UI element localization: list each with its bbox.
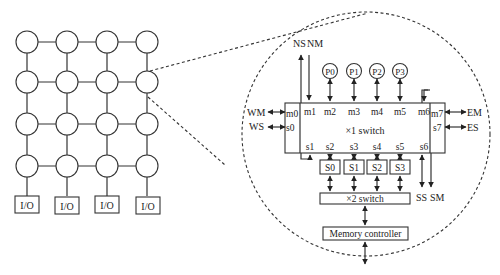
mesh-node bbox=[136, 31, 158, 53]
port-m5: m5 bbox=[394, 107, 406, 117]
port-s7: s7 bbox=[433, 123, 442, 133]
io-label: I/O bbox=[60, 201, 73, 212]
processor-label: P3 bbox=[395, 67, 405, 77]
port-s0: s0 bbox=[286, 123, 295, 133]
mesh-node bbox=[56, 113, 78, 135]
mesh-node bbox=[56, 31, 78, 53]
ws-label: WS bbox=[249, 121, 264, 132]
em-label: EM bbox=[467, 107, 482, 118]
slave-links-bottom bbox=[330, 176, 400, 191]
port-m2: m2 bbox=[324, 107, 336, 117]
mesh-horizontal-links bbox=[27, 42, 147, 166]
mesh-node bbox=[16, 71, 38, 93]
mesh-node-highlighted bbox=[136, 71, 158, 93]
callout-line-top bbox=[150, 13, 368, 71]
processor-label: P1 bbox=[349, 67, 359, 77]
io-label: I/O bbox=[100, 200, 113, 211]
port-s4: s4 bbox=[373, 142, 382, 152]
port-s5: s5 bbox=[396, 142, 405, 152]
mesh-node bbox=[96, 113, 118, 135]
processor-label: P2 bbox=[372, 67, 382, 77]
mesh-node bbox=[56, 155, 78, 177]
es-label: ES bbox=[467, 122, 479, 133]
io-blocks: I/O I/O I/O I/O bbox=[15, 196, 160, 214]
x1-switch-label: ×1 switch bbox=[345, 125, 384, 136]
port-s2: s2 bbox=[326, 142, 335, 152]
callout-line-bottom bbox=[148, 97, 225, 165]
nm-label: NM bbox=[307, 38, 323, 49]
mesh-node bbox=[16, 31, 38, 53]
mesh-node bbox=[56, 71, 78, 93]
port-m7: m7 bbox=[431, 109, 443, 119]
mesh-vertical-links bbox=[27, 42, 147, 196]
port-s1: s1 bbox=[306, 142, 315, 152]
mesh-node bbox=[136, 155, 158, 177]
port-m6: m6 bbox=[418, 107, 430, 117]
port-s3: s3 bbox=[350, 142, 359, 152]
port-m1: m1 bbox=[304, 107, 316, 117]
processors: P0 P1 P2 P3 bbox=[323, 64, 408, 79]
processor-links bbox=[330, 79, 400, 101]
mesh-node bbox=[136, 113, 158, 135]
mesh-node bbox=[96, 31, 118, 53]
slave-links-top bbox=[330, 155, 400, 159]
wm-label: WM bbox=[247, 107, 265, 118]
x1-switch: ×1 switch m0 m1 m2 m3 m4 m5 m6 m7 s0 s1 … bbox=[285, 103, 445, 153]
slave-blocks: S0 S1 S2 S3 bbox=[320, 160, 410, 174]
node-detail: NS NM P0 P1 P2 P3 bbox=[247, 38, 482, 264]
port-m4: m4 bbox=[371, 107, 383, 117]
processor-label: P0 bbox=[325, 67, 335, 77]
sm-label: SM bbox=[430, 192, 445, 203]
x2-switch-label: ×2 switch bbox=[346, 194, 384, 204]
port-m3: m3 bbox=[348, 107, 360, 117]
mesh-nodes bbox=[16, 31, 158, 177]
mesh-network: I/O I/O I/O I/O bbox=[15, 31, 160, 214]
mesh-node bbox=[16, 113, 38, 135]
noc-architecture-diagram: I/O I/O I/O I/O NS NM P0 P1 P2 bbox=[0, 0, 500, 275]
mesh-node bbox=[96, 155, 118, 177]
slave-label: S2 bbox=[372, 163, 382, 173]
slave-label: S0 bbox=[325, 163, 335, 173]
port-s6: s6 bbox=[420, 142, 429, 152]
memory-controller-label: Memory controller bbox=[329, 229, 402, 239]
slave-label: S3 bbox=[395, 163, 405, 173]
s1-loop bbox=[301, 153, 310, 159]
slave-label: S1 bbox=[349, 163, 359, 173]
port-m0: m0 bbox=[286, 109, 298, 119]
ss-label: SS bbox=[416, 192, 427, 203]
io-label: I/O bbox=[20, 200, 33, 211]
io-label: I/O bbox=[141, 201, 154, 212]
mesh-node bbox=[16, 155, 38, 177]
mesh-node bbox=[96, 71, 118, 93]
ns-label: NS bbox=[293, 38, 306, 49]
